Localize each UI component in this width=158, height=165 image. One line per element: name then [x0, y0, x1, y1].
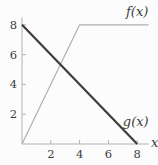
annotation-label: f(x) [125, 4, 148, 19]
y-tick-label: 6 [10, 48, 17, 62]
y-tick-label: 4 [10, 77, 17, 91]
annotations-layer: f(x)g(x)x [123, 4, 158, 150]
x-tick-label: 2 [47, 147, 54, 161]
annotation-label: g(x) [123, 114, 149, 129]
series-line-gx [22, 25, 137, 144]
y-tick-label: 2 [10, 107, 17, 121]
function-plot: 24682468 f(x)g(x)x [0, 0, 158, 165]
annotation-label: x [151, 135, 158, 150]
chart-svg: 24682468 f(x)g(x)x [0, 0, 158, 165]
x-tick-label: 6 [105, 147, 112, 161]
x-tick-label: 4 [76, 147, 83, 161]
x-tick-label: 8 [134, 147, 141, 161]
tick-labels-layer: 24682468 [10, 18, 141, 161]
y-tick-label: 8 [10, 18, 17, 32]
